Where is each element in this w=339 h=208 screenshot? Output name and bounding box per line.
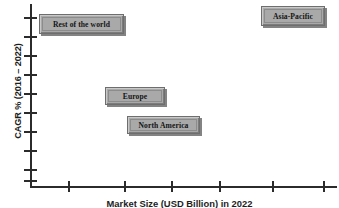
data-point-label: Asia-Pacific <box>273 12 313 21</box>
y-axis-tick <box>24 180 37 182</box>
x-axis-line <box>30 186 337 188</box>
data-point-label-box[interactable]: Asia-Pacific <box>261 6 325 26</box>
x-axis-tick <box>323 181 325 192</box>
data-point-label: North America <box>138 121 188 130</box>
scatter-chart: CAGR % (2016 – 2022) Rest of the worldAs… <box>0 0 339 208</box>
data-point-label: Rest of the world <box>53 20 110 29</box>
x-axis-tick <box>219 181 221 192</box>
data-point-label-box[interactable]: Rest of the world <box>39 14 124 34</box>
x-axis-title: Market Size (USD Billion) in 2022 <box>20 198 339 208</box>
data-point-label: Europe <box>123 92 148 101</box>
y-axis-tick <box>24 169 37 171</box>
data-point-label-box[interactable]: Europe <box>105 87 165 105</box>
y-axis-line <box>30 4 32 188</box>
x-axis-tick <box>272 181 274 192</box>
y-axis-tick <box>24 17 37 19</box>
y-axis-tick <box>24 74 37 76</box>
x-axis-tick <box>124 181 126 192</box>
y-axis-title: CAGR % (2016 – 2022) <box>13 16 23 166</box>
y-axis-tick <box>24 131 37 133</box>
x-axis-tick <box>68 181 70 192</box>
y-axis-tick <box>24 150 37 152</box>
y-axis-tick <box>24 112 37 114</box>
data-point-label-box[interactable]: North America <box>127 116 200 134</box>
y-axis-tick <box>24 36 37 38</box>
y-axis-tick <box>24 93 37 95</box>
y-axis-tick <box>24 55 37 57</box>
x-axis-tick <box>171 181 173 192</box>
